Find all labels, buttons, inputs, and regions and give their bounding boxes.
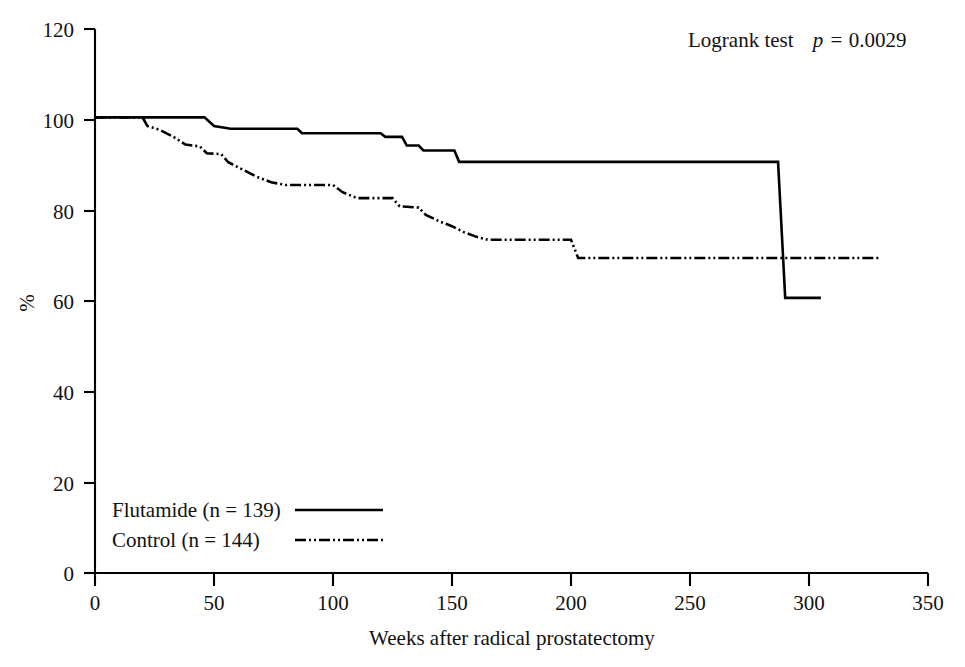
y-axis-ticks <box>84 29 95 573</box>
legend-label-flutamide: Flutamide (n = 139) <box>112 498 281 522</box>
series-line-flutamide <box>95 117 821 297</box>
logrank-value: 0.0029 <box>849 28 907 52</box>
y-tick-label-120: 120 <box>43 18 75 42</box>
x-tick-label-100: 100 <box>317 591 349 615</box>
logrank-relation: = <box>831 28 843 52</box>
logrank-statistic: p <box>811 28 824 52</box>
y-tick-label-0: 0 <box>64 562 75 586</box>
x-tick-label-200: 200 <box>555 591 587 615</box>
y-axis-title: % <box>15 294 39 312</box>
data-curves <box>95 117 880 297</box>
y-axis-tick-labels: 120 100 80 60 40 20 0 <box>43 18 75 586</box>
x-tick-label-250: 250 <box>674 591 706 615</box>
x-tick-label-50: 50 <box>204 591 225 615</box>
legend: Flutamide (n = 139) Control (n = 144) <box>112 498 383 552</box>
axes <box>95 29 928 573</box>
logrank-prefix: Logrank test <box>688 28 794 52</box>
x-tick-label-150: 150 <box>436 591 468 615</box>
x-tick-label-0: 0 <box>90 591 101 615</box>
series-line-control <box>95 117 880 258</box>
logrank-annotation: Logrank test p = 0.0029 <box>688 28 906 52</box>
x-axis-title: Weeks after radical prostatectomy <box>369 626 655 650</box>
y-tick-label-60: 60 <box>53 290 74 314</box>
x-axis-tick-labels: 0 50 100 150 200 250 300 350 <box>90 591 944 615</box>
chart-canvas: 120 100 80 60 40 20 0 0 50 100 150 200 2… <box>0 0 965 667</box>
x-tick-label-350: 350 <box>912 591 944 615</box>
survival-chart: 120 100 80 60 40 20 0 0 50 100 150 200 2… <box>0 0 965 667</box>
x-axis-ticks <box>95 573 928 586</box>
y-tick-label-20: 20 <box>53 472 74 496</box>
legend-label-control: Control (n = 144) <box>112 528 260 552</box>
y-tick-label-40: 40 <box>53 381 74 405</box>
y-tick-label-80: 80 <box>53 200 74 224</box>
x-tick-label-300: 300 <box>793 591 825 615</box>
y-tick-label-100: 100 <box>43 109 75 133</box>
